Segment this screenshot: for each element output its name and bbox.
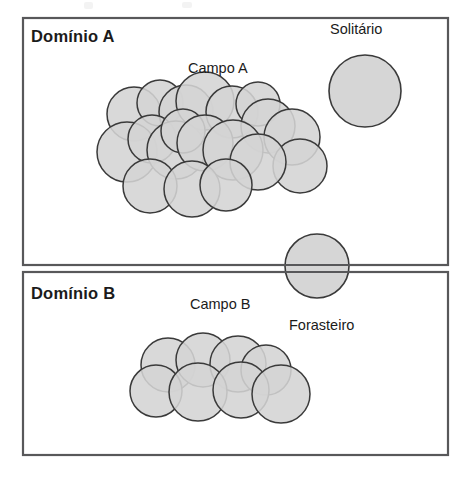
label-dominio-b: Domínio B (31, 285, 115, 302)
label-campo-a: Campo A (188, 61, 248, 76)
label-dominio-a: Domínio A (31, 28, 115, 45)
campo-b-circle (252, 365, 310, 423)
solitario-circle (329, 55, 401, 127)
label-campo-b: Campo B (190, 297, 250, 312)
campo-a-circle (200, 159, 252, 211)
diagram-figure: Domínio A Solitário Campo A Domínio B Ca… (0, 0, 472, 480)
label-solitario: Solitário (330, 22, 382, 37)
label-forasteiro: Forasteiro (289, 318, 354, 333)
